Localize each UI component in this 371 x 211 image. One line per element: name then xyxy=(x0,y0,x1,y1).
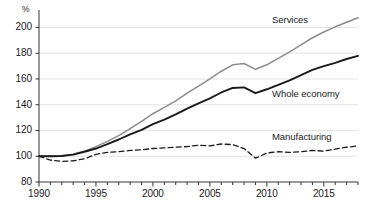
y-tick-label: 80 xyxy=(2,176,32,187)
line-chart: % 80100120140160180200 19901995200020052… xyxy=(0,0,371,211)
y-tick-label: 100 xyxy=(2,150,32,161)
x-tick-label: 1990 xyxy=(19,188,59,199)
y-axis-ticks xyxy=(36,27,40,182)
x-tick-label: 2005 xyxy=(190,188,230,199)
series-label-manufacturing: Manufacturing xyxy=(272,131,332,142)
y-tick-label: 200 xyxy=(2,21,32,32)
y-tick-label: 160 xyxy=(2,73,32,84)
y-tick-label: 120 xyxy=(2,124,32,135)
series-path-manufacturing xyxy=(39,144,358,161)
series-label-whole-economy: Whole economy xyxy=(272,88,339,99)
y-tick-label: 180 xyxy=(2,47,32,58)
x-tick-label: 1995 xyxy=(76,188,116,199)
chart-plot-area xyxy=(0,0,371,211)
y-tick-label: 140 xyxy=(2,99,32,110)
x-tick-label: 2000 xyxy=(133,188,173,199)
x-tick-label: 2015 xyxy=(304,188,344,199)
series-label-services: Services xyxy=(272,14,308,25)
x-tick-label: 2010 xyxy=(247,188,287,199)
x-axis-ticks xyxy=(39,182,358,187)
